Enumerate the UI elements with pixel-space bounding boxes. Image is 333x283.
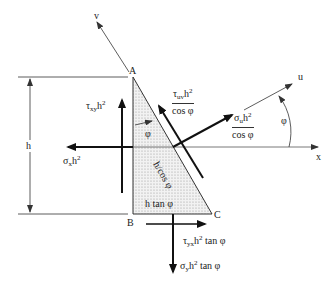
sigma-x-label: σxh2 — [63, 155, 80, 168]
tau-xy-label: τxyh2 — [86, 100, 106, 113]
height-label: h — [26, 141, 31, 151]
vertex-a-label: A — [129, 66, 136, 76]
inner-angle-label: φ — [145, 129, 151, 139]
vertex-c-label: C — [214, 210, 221, 220]
u-axis-label: u — [298, 72, 303, 82]
base-label: h tan φ — [145, 199, 173, 209]
sigma-y-label: σyh2 tan φ — [180, 260, 220, 273]
outer-angle-label: φ — [281, 116, 287, 126]
v-axis-label: v — [94, 11, 99, 21]
sigma-u-label: σuh2 cos φ — [232, 112, 254, 140]
stress-element-diagram — [0, 0, 333, 283]
v-axis — [97, 22, 129, 72]
tau-yx-label: τyxh2 tan φ — [183, 235, 226, 248]
x-axis-label: x — [316, 152, 321, 162]
tau-uv-label: τuvh2 cos φ — [172, 88, 194, 116]
sigma-u-arrow — [173, 115, 232, 147]
vertex-b-label: B — [127, 218, 134, 228]
